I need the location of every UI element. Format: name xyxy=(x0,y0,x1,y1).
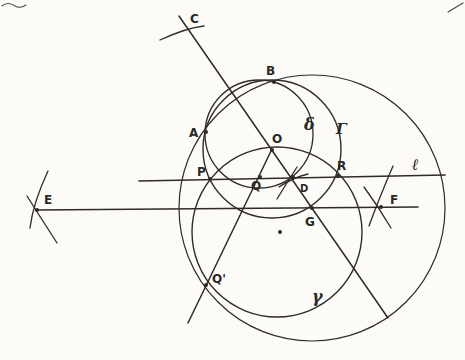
point-P-dot xyxy=(208,177,212,181)
artifact-top-right xyxy=(448,3,463,12)
label-C: C xyxy=(190,12,199,26)
line-C-O-D-G xyxy=(179,16,388,318)
point-Qprime-dot xyxy=(204,283,208,287)
point-Qprime-label: Q' xyxy=(212,272,226,286)
point-D-label: D xyxy=(300,183,308,194)
point-B-dot xyxy=(272,80,276,84)
point-A-dot xyxy=(204,130,208,134)
point-R-dot xyxy=(336,174,340,178)
label-gamma: γ xyxy=(312,287,324,306)
point-F-dot xyxy=(379,205,383,209)
label-delta: δ xyxy=(303,115,315,134)
point-F-label: F xyxy=(390,193,398,207)
point-E-label: E xyxy=(44,193,52,207)
label-Gamma: Γ xyxy=(335,120,348,138)
point-R-label: R xyxy=(337,159,346,173)
point-B-label: B xyxy=(266,64,275,78)
point-center-dot-dot xyxy=(278,230,282,234)
point-O-label: O xyxy=(272,132,282,146)
artifact-top-left xyxy=(2,4,26,8)
point-P-label: P xyxy=(197,165,206,179)
point-D-dot xyxy=(291,175,295,179)
tick-C xyxy=(160,26,204,40)
point-G-label: G xyxy=(305,215,315,229)
point-E-dot xyxy=(35,208,39,212)
label-l: ℓ xyxy=(411,155,419,174)
point-Q-label: Q xyxy=(251,179,261,193)
circle-delta xyxy=(205,80,313,188)
point-A-label: A xyxy=(189,126,199,140)
line-E-F xyxy=(37,207,418,210)
sketch-svg: BAOPQRDGEFQ'CδΓℓγ xyxy=(0,0,465,360)
point-O-dot xyxy=(270,148,274,152)
sketch-page: BAOPQRDGEFQ'CδΓℓγ xyxy=(0,0,465,360)
point-G-dot xyxy=(310,206,314,210)
